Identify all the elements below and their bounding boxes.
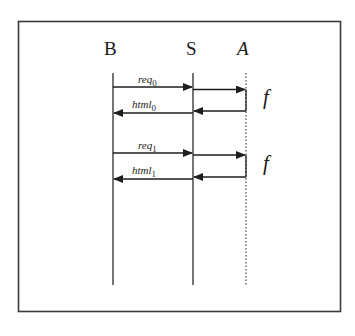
label-html-1: html1 [132, 164, 156, 179]
label-req-1: req1 [138, 139, 157, 154]
actor-label-b: B [104, 38, 117, 59]
label-req-0: req0 [138, 73, 157, 88]
function-label-f-0: f [263, 85, 272, 109]
label-html-0: html0 [132, 98, 157, 113]
actor-label-a: A [235, 38, 249, 59]
actor-label-s: S [186, 38, 197, 59]
diagram-frame [19, 22, 341, 312]
sequence-diagram: B S A req0 f html0 req1 f html1 [0, 0, 355, 336]
function-label-f-1: f [263, 151, 272, 175]
